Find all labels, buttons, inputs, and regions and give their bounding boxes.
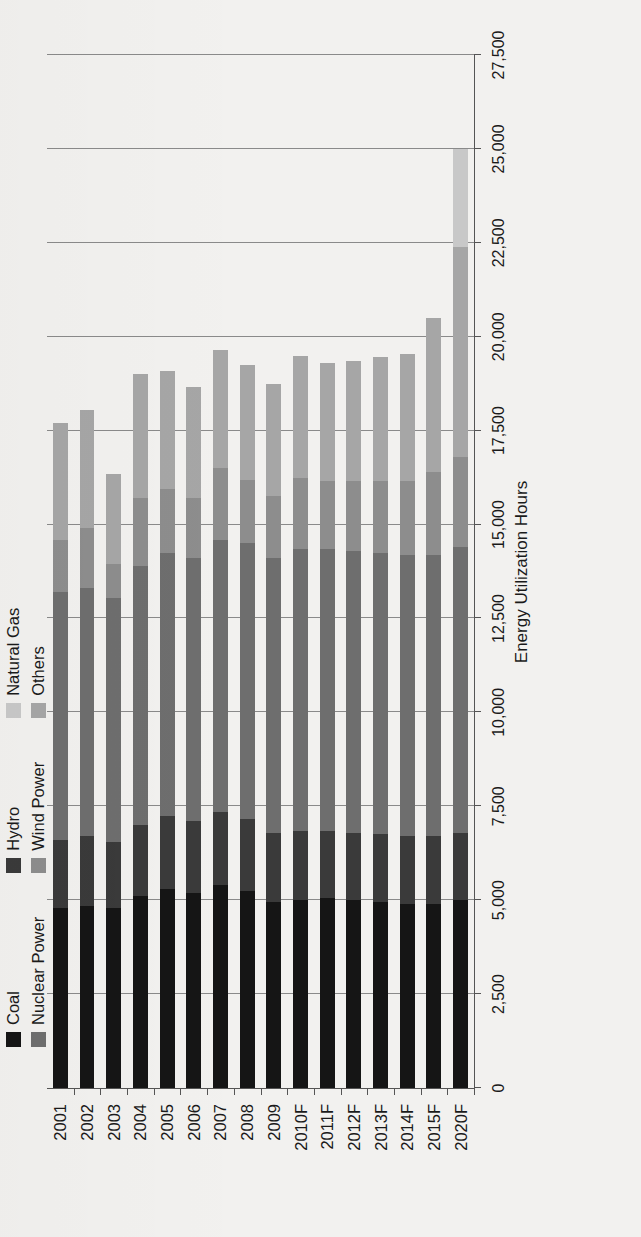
bar-segment-wind-power (453, 457, 468, 547)
legend-swatch-nuclear-power-icon (31, 1032, 46, 1047)
legend-item-others: Others (29, 608, 48, 718)
bar-segment-nuclear-power (106, 598, 121, 842)
bar-segment-coal (320, 898, 335, 1088)
bar-segment-others (320, 363, 335, 481)
bar-segment-coal (53, 908, 68, 1088)
bar-segment-wind-power (53, 540, 68, 593)
rotated-figure-frame: CoalNuclear PowerHydroWind PowerNatural … (0, 0, 641, 1237)
bar-segment-wind-power (373, 481, 388, 552)
value-axis-tick (474, 524, 481, 525)
bar-segment-coal (160, 889, 175, 1088)
legend-column-2: Natural GasOthers (4, 608, 48, 718)
bar-segment-nuclear-power (186, 558, 201, 821)
bar-segment-natural-gas (453, 149, 468, 247)
category-label-2006: 2006 (184, 1104, 203, 1141)
bar-segment-hydro (240, 819, 255, 890)
bar-2012F (346, 361, 361, 1088)
bar-2020F (453, 149, 468, 1088)
bar-segment-wind-power (240, 480, 255, 544)
category-label-2009: 2009 (264, 1104, 283, 1141)
legend-item-coal: Coal (4, 917, 23, 1047)
legend-label: Wind Power (29, 762, 48, 851)
bar-segment-hydro (293, 831, 308, 900)
bar-segment-hydro (80, 836, 95, 905)
category-label-2011F: 2011F (318, 1104, 337, 1150)
bar-segment-coal (133, 896, 148, 1088)
bar-segment-wind-power (400, 481, 415, 554)
category-axis-tick (180, 1088, 181, 1095)
value-axis-tick-label: 22,500 (490, 218, 508, 267)
legend-label: Others (29, 646, 48, 696)
bar-segment-coal (373, 902, 388, 1088)
category-axis-tick (341, 1088, 342, 1095)
bar-2004 (133, 374, 148, 1088)
bar-segment-coal (293, 900, 308, 1088)
bar-segment-wind-power (213, 468, 228, 539)
bar-segment-others (160, 371, 175, 489)
bar-2013F (373, 357, 388, 1088)
bar-segment-others (80, 410, 95, 528)
category-label-2014F: 2014F (398, 1104, 417, 1151)
legend-swatch-others-icon (31, 703, 46, 718)
value-axis-tick-label: 17,500 (490, 406, 508, 455)
category-label-2004: 2004 (131, 1104, 150, 1141)
legend-column-1: HydroWind Power (4, 762, 48, 873)
bar-segment-others (426, 318, 441, 472)
value-axis-tick-label: 10,000 (490, 688, 508, 737)
bar-2010F (293, 356, 308, 1088)
category-axis-tick (287, 1088, 288, 1095)
legend-column-0: CoalNuclear Power (4, 917, 48, 1047)
bar-segment-hydro (400, 836, 415, 904)
bar-segment-coal (266, 902, 281, 1088)
value-axis-tick (474, 336, 481, 337)
bar-segment-others (346, 361, 361, 481)
bar-segment-hydro (373, 834, 388, 902)
bar-2006 (186, 387, 201, 1088)
bar-segment-nuclear-power (293, 549, 308, 831)
bar-segment-others (293, 356, 308, 478)
bar-segment-others (266, 384, 281, 497)
category-label-2002: 2002 (78, 1104, 97, 1141)
category-axis-tick (154, 1088, 155, 1095)
gridline (47, 54, 474, 55)
bar-2001 (53, 423, 68, 1088)
bar-segment-others (53, 423, 68, 539)
bar-segment-hydro (426, 836, 441, 904)
category-axis-tick (447, 1088, 448, 1095)
bar-segment-coal (106, 908, 121, 1088)
category-label-2008: 2008 (238, 1104, 257, 1141)
legend-item-nuclear-power: Nuclear Power (29, 917, 48, 1047)
legend-label: Hydro (4, 807, 23, 851)
bar-segment-wind-power (186, 498, 201, 558)
category-axis-tick (474, 1088, 475, 1095)
bar-segment-nuclear-power (346, 551, 361, 833)
category-axis-tick (367, 1088, 368, 1095)
bar-segment-wind-power (133, 498, 148, 566)
value-axis-tick (474, 899, 481, 900)
category-label-2007: 2007 (211, 1104, 230, 1141)
category-axis-tick (261, 1088, 262, 1095)
category-axis-tick (314, 1088, 315, 1095)
bar-segment-wind-power (426, 472, 441, 555)
value-axis-tick (474, 1087, 481, 1088)
category-axis-tick (234, 1088, 235, 1095)
bar-segment-nuclear-power (53, 592, 68, 840)
bar-segment-hydro (453, 833, 468, 901)
category-label-2015F: 2015F (424, 1104, 443, 1151)
value-axis-tick (474, 242, 481, 243)
value-axis-tick (474, 805, 481, 806)
bar-segment-nuclear-power (453, 547, 468, 832)
bar-2009 (266, 384, 281, 1088)
legend-item-wind-power: Wind Power (29, 762, 48, 873)
value-axis-tick-label: 2,500 (490, 974, 508, 1014)
value-axis-tick-label: 5,000 (490, 880, 508, 920)
value-axis-tick (474, 617, 481, 618)
value-axis-tick (474, 54, 481, 55)
bar-segment-hydro (133, 825, 148, 896)
bar-segment-nuclear-power (426, 555, 441, 837)
category-label-2005: 2005 (158, 1104, 177, 1141)
bar-segment-coal (240, 891, 255, 1088)
legend-swatch-wind-power-icon (31, 858, 46, 873)
bar-segment-others (240, 365, 255, 480)
bar-segment-wind-power (320, 481, 335, 549)
